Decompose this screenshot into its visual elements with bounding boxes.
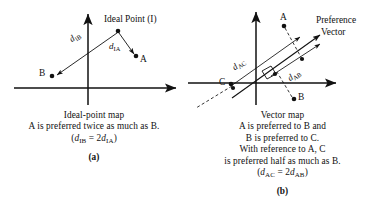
point-b-marker (292, 97, 297, 102)
projection-point-b-marker (273, 72, 277, 76)
point-a-label: A (140, 54, 147, 64)
panel-vector-map: A B C Preference Vector dAC dAB Vector m… (188, 0, 377, 219)
caption-panel-b: Vector map A is preferred to B and B is … (188, 110, 377, 198)
panel-letter-b: (b) (188, 186, 377, 197)
preference-vector-label-line1: Preference (316, 15, 356, 25)
projection-point-a-marker (300, 57, 304, 61)
point-c-label: C (219, 77, 225, 87)
ideal-point-marker (116, 29, 121, 34)
ideal-point-map-diagram (0, 0, 188, 110)
ideal-point-label: Ideal Point (I) (104, 14, 157, 24)
caption-formula: (dIB = 2dIA) (0, 133, 188, 145)
point-a-label: A (280, 12, 287, 22)
point-b-marker (50, 74, 55, 79)
figure-root: Ideal Point (I) A B dIB dIA Ideal-point … (0, 0, 377, 219)
point-a-marker (282, 24, 287, 29)
distance-line-ib (57, 33, 117, 75)
caption-line: Vector map (188, 110, 377, 121)
distance-line-ia (119, 33, 134, 54)
caption-line: A is preferred to B and (188, 121, 377, 132)
point-c-marker (229, 82, 234, 87)
caption-panel-a: Ideal-point map A is preferred twice as … (0, 110, 188, 164)
caption-line: With reference to A, C (188, 144, 377, 155)
panel-ideal-point-map: Ideal Point (I) A B dIB dIA Ideal-point … (0, 0, 188, 219)
caption-line: is preferred half as much as B. (188, 156, 377, 167)
caption-formula: (dAC = 2dAB) (188, 167, 377, 179)
distance-ia-label: dIA (109, 41, 120, 51)
projection-point-c-marker (231, 86, 235, 90)
point-b-label: B (39, 68, 45, 78)
point-a-marker (134, 54, 139, 59)
preference-vector-label-line2: Vector (321, 27, 345, 37)
panel-letter-a: (a) (0, 152, 188, 163)
projection-line-c (196, 86, 232, 108)
caption-line: B is preferred to C. (188, 133, 377, 144)
caption-line: Ideal-point map (0, 110, 188, 121)
point-b-label: B (298, 92, 304, 102)
caption-line: A is preferred twice as much as B. (0, 121, 188, 132)
